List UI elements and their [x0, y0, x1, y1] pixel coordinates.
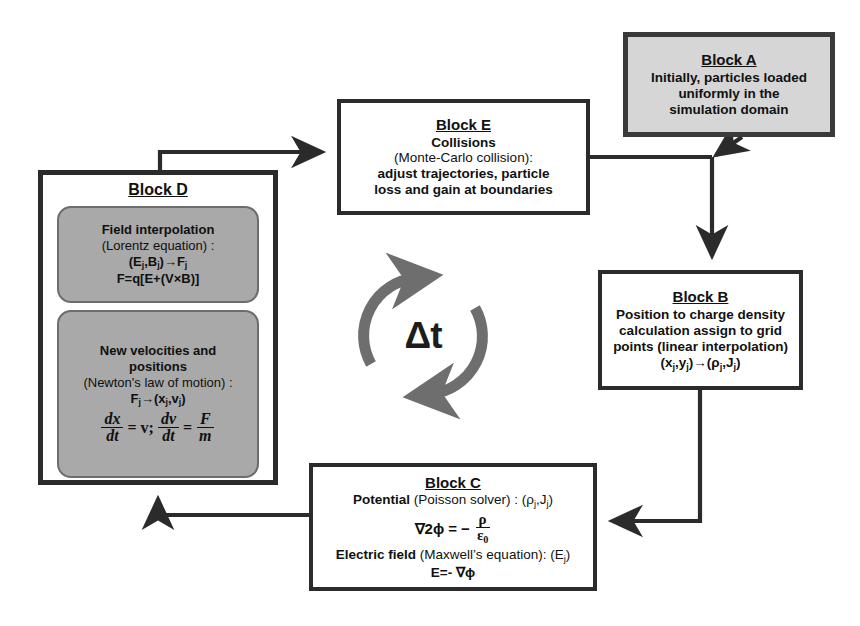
diagram-canvas: Δt Block A Initially, particles loaded u… [0, 0, 860, 626]
poisson-lhs: ∇2ϕ = [415, 520, 458, 538]
block-c-efield-line: Electric field (Maxwell’s equation): (Ej… [336, 547, 570, 564]
arrow-c-to-d [158, 499, 309, 515]
dx-denominator: dt [103, 428, 121, 444]
block-c-efield-equation: E=- ∇ϕ [431, 565, 475, 581]
block-e-line-4: loss and gain at boundaries [374, 182, 553, 198]
block-b-line-2: calculation assign to grid [619, 323, 782, 339]
poisson-numerator: ρ [476, 512, 490, 528]
block-e-line-2: (Monte-Carlo collision): [394, 150, 533, 166]
block-d-field-interpolation[interactable]: Field interpolation (Lorentz equation) :… [57, 206, 259, 303]
block-c-potential-line: Potential (Poisson solver) : (ρj,Jj) [353, 492, 553, 509]
block-c-potential-label: Potential [353, 492, 410, 507]
mass-denominator: m [196, 428, 214, 444]
dv-denominator: dt [159, 428, 177, 444]
time-step-label: Δt [337, 252, 509, 420]
poisson-minus: − [461, 520, 470, 538]
equation-equals: = [183, 418, 192, 438]
block-e[interactable]: Block E Collisions (Monte-Carlo collisio… [337, 99, 590, 215]
motion-equation-row: dx dt = v; dv dt = F m [101, 411, 214, 445]
field-interp-line-2: (Lorentz equation) : [102, 238, 215, 254]
block-b[interactable]: Block B Position to charge density calcu… [598, 270, 803, 390]
block-a-line-3: simulation domain [669, 102, 788, 118]
block-c-poisson-equation: ∇2ϕ = − ρ ε0 [415, 512, 492, 546]
block-e-line-3: adjust trajectories, particle [378, 166, 550, 182]
block-c-efield-label: Electric field [336, 547, 416, 562]
field-interp-line-1: Field interpolation [102, 222, 215, 238]
block-a-line-2: uniformly in the [678, 86, 779, 102]
arrow-d-to-e [160, 152, 322, 170]
dv-numerator: dv [158, 411, 179, 428]
dv-dt-fraction: dv dt [158, 411, 179, 445]
block-a-line-1: Initially, particles loaded [651, 70, 807, 86]
block-e-title: Block E [436, 116, 491, 134]
motion-line-1: New velocities and [100, 343, 216, 359]
field-interp-formula-2: F=q[E+(V×B)] [117, 271, 200, 287]
block-c[interactable]: Block C Potential (Poisson solver) : (ρj… [309, 463, 597, 591]
block-e-line-1: Collisions [431, 135, 496, 151]
block-a-title: Block A [701, 51, 756, 69]
motion-formula-1: Fj→(xj,vj) [130, 391, 185, 408]
block-b-line-1: Position to charge density [616, 307, 785, 323]
force-numerator: F [197, 411, 214, 428]
block-c-title: Block C [425, 474, 481, 492]
poisson-denominator: ε0 [474, 528, 492, 545]
arrow-a-to-junction [716, 137, 742, 155]
block-a[interactable]: Block A Initially, particles loaded unif… [623, 32, 835, 137]
motion-line-2: positions [129, 359, 187, 375]
block-d-title: Block D [128, 181, 188, 200]
block-d-new-velocities-positions[interactable]: New velocities and positions (Newton's l… [57, 310, 259, 478]
block-d[interactable]: Block D Field interpolation (Lorentz equ… [38, 170, 278, 485]
poisson-fraction: ρ ε0 [474, 512, 492, 546]
block-b-line-3: points (linear interpolation) [613, 339, 788, 355]
f-over-m-fraction: F m [196, 411, 214, 445]
field-interp-formula-1: (Ej,Bj)→Fj [129, 254, 188, 271]
motion-line-3: (Newton's law of motion) : [83, 375, 232, 391]
dx-dt-fraction: dx dt [101, 411, 123, 445]
block-b-formula: (xj,yj)→(ρj,Jj) [660, 355, 740, 372]
equation-mid: = v; [127, 418, 153, 438]
dx-numerator: dx [101, 411, 123, 428]
block-b-title: Block B [673, 288, 729, 306]
arrow-b-to-c [612, 390, 700, 521]
